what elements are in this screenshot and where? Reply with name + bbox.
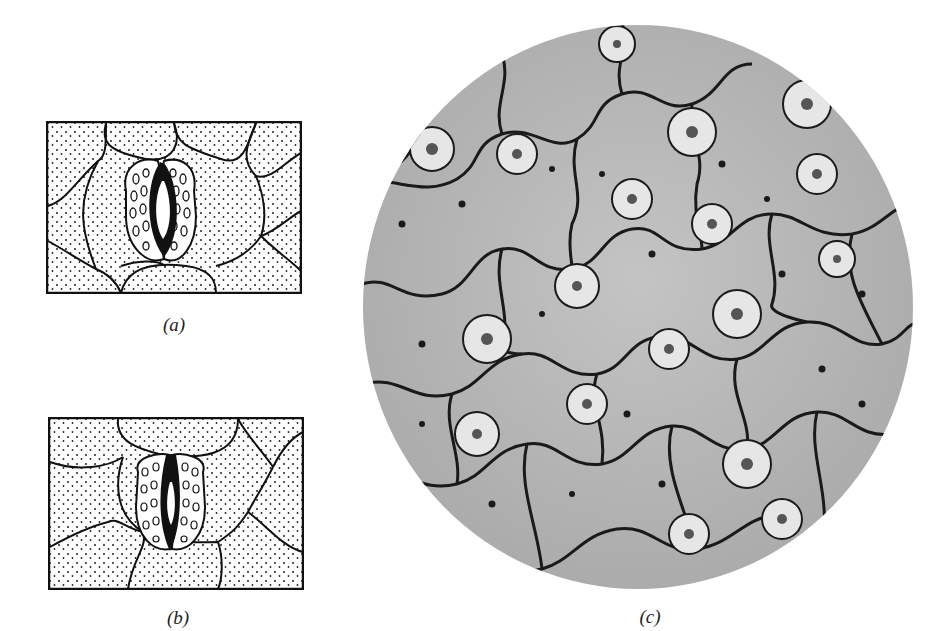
- stoma-open-drawing: [46, 121, 302, 294]
- epidermis-micrograph: [362, 24, 914, 590]
- panel-c-label: (c): [622, 606, 678, 628]
- panel-c-micrograph: [362, 24, 914, 590]
- panel-b-diagram: [48, 417, 304, 590]
- panel-a-label: (a): [146, 314, 202, 336]
- stoma-closed-drawing: [48, 417, 304, 590]
- panel-a-diagram: [46, 121, 302, 294]
- panel-b-label: (b): [150, 607, 206, 629]
